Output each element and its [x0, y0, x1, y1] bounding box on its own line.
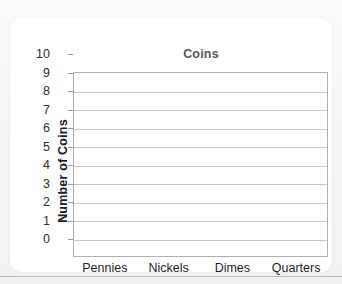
- x-axis-label-nickels: Nickels: [137, 261, 201, 275]
- gridline: [74, 203, 327, 204]
- y-tick-mark: [68, 54, 73, 55]
- x-axis-labels: PenniesNickelsDimesQuarters: [73, 261, 328, 275]
- y-tick-label: 0: [20, 233, 50, 246]
- y-tick-label: 9: [20, 67, 50, 80]
- y-tick-mark: [68, 128, 73, 129]
- x-axis-label-pennies: Pennies: [73, 261, 137, 275]
- y-tick-mark: [68, 184, 73, 185]
- y-tick-mark: [68, 221, 73, 222]
- y-axis-title: Number of Coins: [56, 76, 70, 266]
- y-tick-mark: [68, 165, 73, 166]
- gridline: [74, 110, 327, 111]
- y-tick-label: 3: [20, 178, 50, 191]
- y-tick-label: 10: [20, 48, 50, 61]
- gridline: [74, 166, 327, 167]
- gridline: [74, 240, 327, 241]
- gridline: [74, 184, 327, 185]
- gridline: [74, 221, 327, 222]
- y-tick-label: 7: [20, 104, 50, 117]
- y-tick-label: 5: [20, 141, 50, 154]
- gridline: [74, 147, 327, 148]
- y-tick-label: 8: [20, 85, 50, 98]
- x-axis-label-dimes: Dimes: [201, 261, 265, 275]
- chart-title: Coins: [73, 47, 329, 61]
- gridline: [74, 92, 327, 93]
- gridline: [74, 129, 327, 130]
- y-tick-mark: [68, 202, 73, 203]
- x-axis-label-quarters: Quarters: [264, 261, 328, 275]
- y-tick-mark: [68, 110, 73, 111]
- y-tick-label: 1: [20, 215, 50, 228]
- page-bottom-rule: [0, 276, 342, 277]
- y-tick-label: 2: [20, 196, 50, 209]
- y-tick-mark: [68, 73, 73, 74]
- y-tick-label: 6: [20, 122, 50, 135]
- y-tick-mark: [68, 239, 73, 240]
- y-tick-label: 4: [20, 159, 50, 172]
- y-tick-mark: [68, 147, 73, 148]
- plot-area: [73, 72, 328, 257]
- y-tick-mark: [68, 91, 73, 92]
- worksheet-card: Coins Number of Coins PenniesNickelsDime…: [10, 18, 332, 272]
